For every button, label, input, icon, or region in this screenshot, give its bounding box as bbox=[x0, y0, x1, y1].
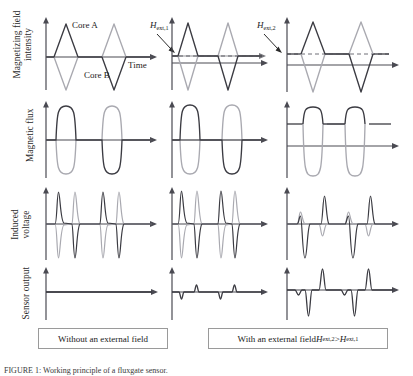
x-axis-arrowhead bbox=[392, 62, 399, 68]
plot-magnetic-flux-col2 bbox=[166, 98, 276, 182]
trace-core-a bbox=[46, 192, 152, 258]
x-axis-arrowhead bbox=[261, 60, 268, 66]
x-axis-arrowhead bbox=[392, 287, 399, 293]
annotation-h-ext-2-subscript: ext,2 bbox=[264, 24, 276, 31]
y-axis-arrowhead bbox=[43, 17, 49, 24]
x-axis-arrowhead bbox=[392, 143, 399, 149]
row-label-magnetic-flux: Magnetic flux bbox=[25, 97, 36, 173]
caption-right-h2-subscript: ext,2 bbox=[322, 335, 334, 342]
x-axis-arrowhead bbox=[261, 289, 268, 295]
caption-right-h1-subscript: ext,1 bbox=[346, 335, 358, 342]
y-axis-arrowhead bbox=[284, 101, 290, 108]
y-axis-arrowhead bbox=[43, 187, 49, 194]
x-axis-arrowhead bbox=[392, 221, 399, 227]
y-axis-arrowhead bbox=[284, 17, 290, 24]
row-label-magnetizing-field-intensity: Magnetizing field intensity bbox=[12, 7, 33, 83]
y-axis-arrowhead bbox=[169, 187, 175, 194]
y-axis-arrowhead bbox=[43, 101, 49, 108]
x-axis-arrowhead bbox=[151, 289, 158, 295]
plot-magnetizing-field-col3 bbox=[281, 12, 411, 96]
trace-core-b-lobe2 bbox=[345, 124, 365, 176]
trace-core-a-lobe2 bbox=[345, 107, 365, 124]
plot-sensor-output-col3 bbox=[281, 266, 411, 324]
trace-core-a bbox=[301, 22, 373, 92]
plot-magnetizing-field-col1 bbox=[40, 12, 165, 96]
trace-core-b bbox=[301, 22, 373, 92]
y-axis-arrowhead bbox=[43, 267, 49, 274]
caption-box-right: With an external field Hext,2 > Hext,1 bbox=[208, 328, 388, 349]
y-axis-arrowhead bbox=[169, 17, 175, 24]
x-axis-arrowhead bbox=[261, 221, 268, 227]
y-axis-arrowhead bbox=[169, 101, 175, 108]
annotation-h-ext-2: Hext,2 bbox=[257, 20, 276, 31]
trace-core-a-lobe1 bbox=[303, 107, 323, 124]
x-axis-label-time: Time bbox=[128, 60, 147, 70]
trace-sensor-output bbox=[172, 285, 262, 299]
trace-core-a bbox=[287, 196, 393, 258]
plot-induced-voltage-col1 bbox=[40, 186, 165, 264]
plot-magnetic-flux-col3 bbox=[281, 98, 411, 182]
y-axis-arrowhead bbox=[169, 267, 175, 274]
trace-core-b-lobe1 bbox=[303, 124, 323, 176]
y-axis-arrowhead bbox=[284, 187, 290, 194]
series-label-core-a: Core A bbox=[72, 20, 98, 30]
caption-box-left: Without an external field bbox=[38, 328, 168, 349]
plot-magnetic-flux-col1 bbox=[40, 98, 165, 182]
caption-left-text: Without an external field bbox=[58, 334, 148, 344]
plot-sensor-output-col2 bbox=[166, 266, 276, 324]
row-label-sensor-output: Sensor output bbox=[21, 255, 32, 331]
trace-sensor-output bbox=[287, 269, 393, 316]
plot-sensor-output-col1 bbox=[40, 266, 165, 324]
trace-core-b bbox=[46, 192, 152, 258]
caption-right-prefix: With an external field bbox=[238, 334, 316, 344]
series-label-core-b: Core B bbox=[84, 70, 110, 80]
row-label-induced-voltage: Induced voltage bbox=[10, 187, 31, 263]
figure-caption: FIGURE 1: Working principle of a fluxgat… bbox=[4, 366, 409, 376]
plot-induced-voltage-col3 bbox=[281, 186, 411, 264]
x-axis-arrowhead bbox=[261, 137, 268, 143]
y-axis-arrowhead bbox=[284, 267, 290, 274]
plot-induced-voltage-col2 bbox=[166, 186, 276, 264]
